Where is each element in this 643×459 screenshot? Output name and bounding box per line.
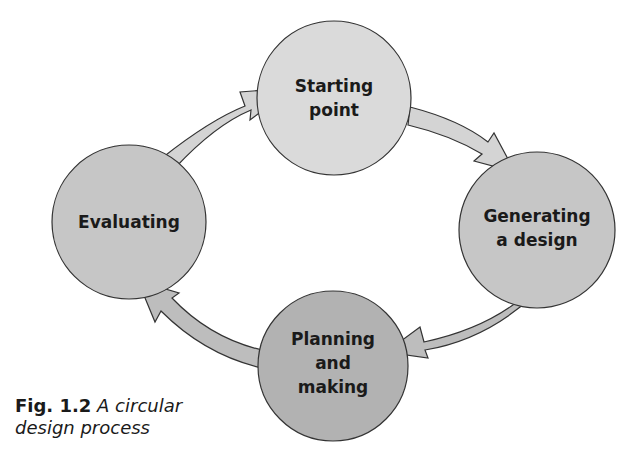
figure-number: Fig. 1.2: [15, 395, 91, 416]
svg-text:Generating: Generating: [483, 206, 590, 226]
caption-text-1: A circular: [97, 395, 182, 416]
caption-text-2: design process: [15, 417, 182, 439]
node-generating-a-design: Generating a design: [459, 152, 615, 308]
node-evaluating: Evaluating: [52, 145, 206, 299]
figure-caption: Fig. 1.2 A circular design process: [15, 395, 182, 439]
arrow-generating-to-planning: [386, 296, 533, 358]
svg-text:making: making: [298, 377, 369, 397]
node-planning-and-making: Planning and making: [258, 291, 408, 441]
svg-text:and: and: [315, 353, 351, 373]
svg-text:Evaluating: Evaluating: [78, 212, 180, 232]
svg-text:Starting: Starting: [295, 76, 373, 96]
svg-text:Planning: Planning: [291, 329, 375, 349]
caption-line-1: Fig. 1.2 A circular: [15, 395, 182, 417]
circular-design-diagram: Starting point Generating a design Plann…: [0, 0, 643, 459]
node-starting-point: Starting point: [257, 21, 411, 175]
svg-text:point: point: [309, 100, 359, 120]
svg-text:a design: a design: [496, 230, 577, 250]
